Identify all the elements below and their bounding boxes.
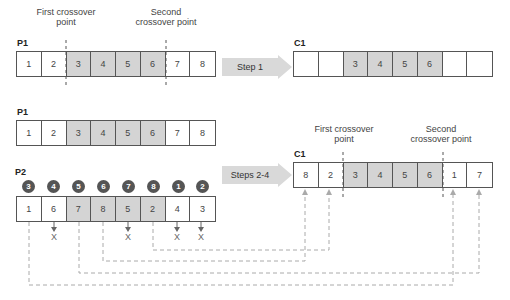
connector-lines (0, 0, 510, 300)
